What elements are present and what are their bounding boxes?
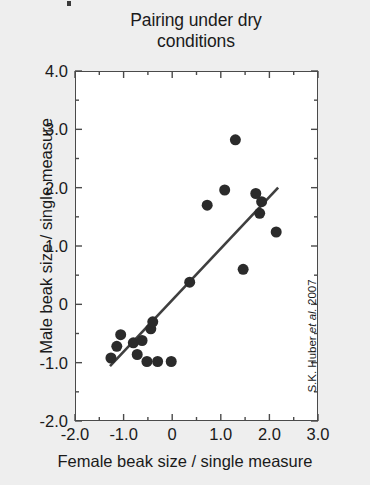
data-point: [238, 264, 249, 275]
plot-canvas: [75, 71, 318, 421]
attribution-prefix: S.K. Huber: [306, 333, 318, 392]
x-tick-label: 2.0: [258, 426, 281, 443]
data-point: [152, 356, 163, 367]
data-point: [105, 353, 116, 364]
chart-title: Pairing under dry conditions: [74, 10, 318, 52]
data-point: [147, 316, 158, 327]
y-axis-title: Male beak size / single measure: [37, 111, 55, 361]
data-point: [111, 341, 122, 352]
image-artifact-speck: [67, 1, 71, 6]
y-tick-label: 0: [59, 296, 68, 313]
x-tick-label: 1.0: [209, 426, 232, 443]
data-point: [271, 227, 282, 238]
data-point: [141, 356, 152, 367]
x-tick-label: -1.0: [109, 426, 137, 443]
data-point: [230, 134, 241, 145]
x-tick-label: -2.0: [61, 426, 89, 443]
y-tick-label: 4.0: [45, 63, 68, 80]
data-point: [184, 277, 195, 288]
chart-title-line-2: conditions: [74, 31, 318, 52]
scatter-plot-figure: Pairing under dry conditions 4.03.02.01.…: [0, 0, 370, 485]
attribution-suffix: 2007: [306, 279, 318, 308]
source-attribution: S.K. Huber et al. 2007: [306, 271, 318, 401]
chart-title-line-1: Pairing under dry: [74, 10, 318, 31]
data-point: [202, 200, 213, 211]
attribution-italic: et al.: [306, 308, 318, 333]
data-point: [137, 335, 148, 346]
data-point: [166, 356, 177, 367]
x-axis-title: Female beak size / single measure: [0, 452, 370, 471]
x-tick-label: 3.0: [307, 426, 330, 443]
data-point: [132, 349, 143, 360]
data-point: [115, 329, 126, 340]
data-point: [254, 208, 265, 219]
data-point: [256, 196, 267, 207]
x-tick-label: 0: [168, 426, 177, 443]
data-point: [219, 185, 230, 196]
